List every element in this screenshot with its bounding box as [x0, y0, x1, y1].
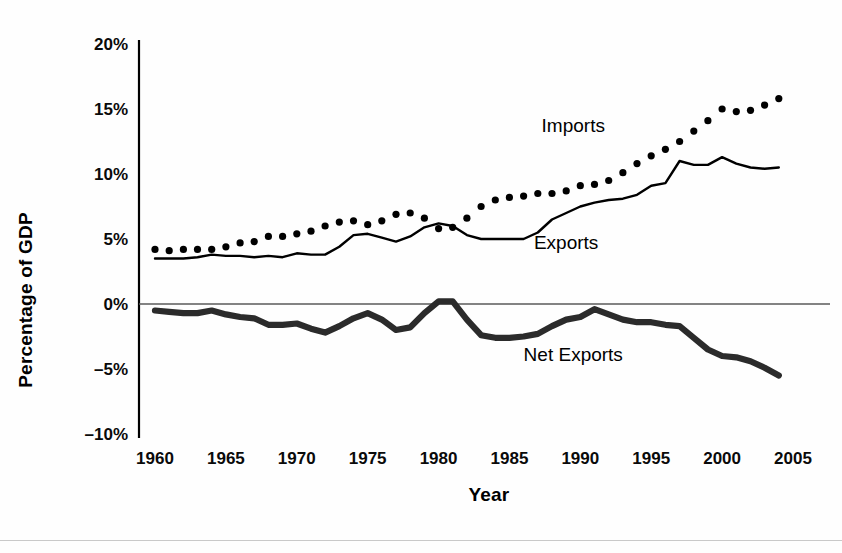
y-tick-label: –10%	[85, 425, 128, 444]
y-tick-label: 5%	[103, 230, 128, 249]
x-axis-title: Year	[469, 484, 510, 505]
y-tick-label: 10%	[94, 165, 128, 184]
series-annotations: ImportsExportsNet Exports	[524, 115, 623, 365]
x-tick-label: 1970	[278, 449, 316, 468]
x-tick-label: 1995	[632, 449, 670, 468]
y-axis-title: Percentage of GDP	[15, 212, 36, 388]
y-tick-label: –5%	[94, 360, 128, 379]
series-annotation: Net Exports	[524, 344, 623, 365]
x-tick-label: 1965	[207, 449, 245, 468]
chart-canvas: Percentage of GDP 20%15%10%5%0%–5%–10% 1…	[0, 0, 842, 553]
x-tick-label: 2005	[774, 449, 812, 468]
series-exports	[155, 157, 779, 258]
x-tick-label: 2000	[703, 449, 741, 468]
y-tick-label: 20%	[94, 35, 128, 54]
series-annotation: Imports	[542, 115, 605, 136]
y-tick-labels: 20%15%10%5%0%–5%–10%	[85, 35, 128, 444]
series-annotation: Exports	[534, 232, 598, 253]
chart-figure: Percentage of GDP 20%15%10%5%0%–5%–10% 1…	[0, 0, 842, 553]
x-tick-label: 1960	[136, 449, 174, 468]
series-net-exports	[155, 301, 779, 375]
series-imports	[151, 95, 782, 254]
x-tick-label: 1975	[349, 449, 387, 468]
bottom-divider	[0, 540, 842, 541]
y-tick-label: 0%	[103, 295, 128, 314]
y-tick-label: 15%	[94, 100, 128, 119]
x-tick-labels: 1960196519701975198019851990199520002005	[136, 449, 812, 468]
x-tick-label: 1980	[420, 449, 458, 468]
x-tick-label: 1990	[561, 449, 599, 468]
x-tick-label: 1985	[491, 449, 529, 468]
